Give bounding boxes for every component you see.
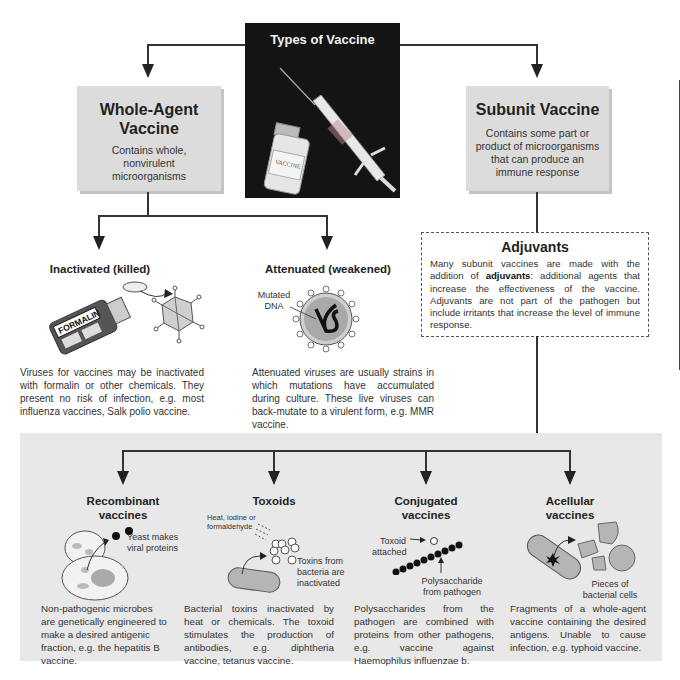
attenuated-heading: Attenuated (weakened) bbox=[248, 262, 408, 276]
connector bbox=[273, 450, 275, 472]
yeast-label: Yeast makesviral proteins bbox=[127, 532, 178, 554]
vaccine-vial-icon: VACCINE bbox=[263, 123, 310, 195]
recombinant-heading: Recombinantvaccines bbox=[63, 494, 183, 522]
connector bbox=[400, 44, 537, 46]
connector bbox=[147, 192, 149, 216]
whole-agent-title-1: Whole-Agent bbox=[77, 100, 221, 119]
toxins-label: Toxins frombacteria areinactivated bbox=[297, 556, 345, 589]
arrow-down-icon bbox=[564, 471, 576, 485]
syringe-and-vial-illustration: VACCINE bbox=[245, 23, 400, 198]
virus-icon bbox=[152, 286, 204, 343]
adjuvants-title: Adjuvants bbox=[422, 239, 648, 255]
connector bbox=[98, 215, 100, 237]
arrow-down-icon bbox=[117, 471, 129, 485]
adjuvants-box: Adjuvants Many subunit vaccines are made… bbox=[421, 232, 649, 337]
conjugated-heading: Conjugatedvaccines bbox=[376, 494, 476, 522]
mutated-dna-label: MutatedDNA bbox=[254, 290, 294, 312]
subunit-vaccine-box: Subunit Vaccine Contains some part or pr… bbox=[466, 86, 609, 191]
connector bbox=[147, 44, 245, 46]
recombinant-description: Non-pathogenic microbes are genetically … bbox=[41, 602, 169, 667]
arrow-down-icon bbox=[321, 236, 333, 250]
arrow-down-icon bbox=[93, 236, 105, 250]
connector bbox=[536, 44, 538, 66]
inactivated-heading: Inactivated (killed) bbox=[35, 262, 165, 276]
adjuvants-description: Many subunit vaccines are made with the … bbox=[430, 258, 640, 332]
arrow-down-icon bbox=[420, 471, 432, 485]
connector bbox=[122, 450, 124, 472]
conjugated-description: Polysaccharides from the pathogen are co… bbox=[354, 602, 494, 667]
connector bbox=[98, 215, 327, 217]
connector bbox=[122, 450, 570, 452]
polysaccharide-label: Polysaccharidefrom pathogen bbox=[421, 576, 483, 598]
acellular-heading: Acellularvaccines bbox=[530, 494, 610, 522]
whole-agent-vaccine-box: Whole-Agent Vaccine Contains whole, nonv… bbox=[77, 86, 221, 191]
attenuated-description: Attenuated viruses are usually strains i… bbox=[252, 366, 434, 431]
inactivated-description: Viruses for vaccines may be inactivated … bbox=[20, 366, 204, 418]
connector bbox=[569, 450, 571, 472]
arrow-down-icon bbox=[268, 471, 280, 485]
yeast-cell-illustration bbox=[55, 520, 135, 605]
title-panel: Types of Vaccine VACCINE bbox=[245, 23, 400, 198]
subunit-description: Contains some part or product of microor… bbox=[474, 127, 601, 179]
attenuated-virus-illustration bbox=[290, 283, 362, 355]
connector bbox=[326, 215, 328, 237]
formalin-bottle-icon: FORMALIN bbox=[48, 292, 133, 356]
polysaccharide-chain-illustration bbox=[390, 530, 490, 575]
arrow-down-icon bbox=[142, 64, 154, 78]
toxoids-description: Bacterial toxins inactivated by heat or … bbox=[184, 602, 334, 667]
connector bbox=[147, 44, 149, 66]
toxoids-heading: Toxoids bbox=[230, 494, 318, 508]
arrow-down-icon bbox=[531, 64, 543, 78]
pieces-label: Pieces ofbacterial cells bbox=[575, 579, 645, 601]
connector bbox=[425, 450, 427, 472]
connector bbox=[536, 192, 538, 232]
whole-agent-title-2: Vaccine bbox=[77, 119, 221, 138]
subunit-title: Subunit Vaccine bbox=[466, 100, 609, 119]
whole-agent-description: Contains whole, nonvirulent microorganis… bbox=[85, 144, 213, 183]
acellular-description: Fragments of a whole-agent vaccine conta… bbox=[510, 602, 646, 654]
formalin-bottle-and-virus-illustration: FORMALIN bbox=[40, 275, 210, 360]
